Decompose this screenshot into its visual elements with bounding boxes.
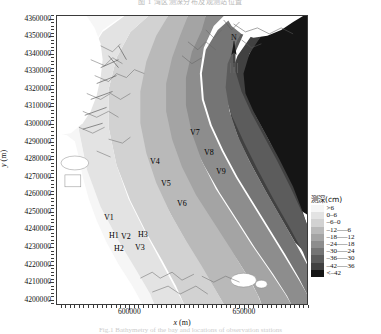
y-axis-minor-tick xyxy=(51,26,54,27)
x-axis-minor-tick xyxy=(290,305,291,308)
y-axis-tick-label: 4300000 xyxy=(24,120,51,128)
y-axis-minor-tick xyxy=(51,99,54,100)
x-axis-minor-tick xyxy=(258,305,259,308)
y-axis-tick-mark xyxy=(49,159,54,160)
y-axis-minor-tick xyxy=(51,166,54,167)
y-axis-tick-label: 4340000 xyxy=(24,50,51,58)
x-axis-minor-tick xyxy=(161,305,162,308)
y-axis: y (m) 4360000435000043400004330000432000… xyxy=(0,15,54,305)
x-axis-minor-tick xyxy=(152,305,153,308)
depth-legend-swatch xyxy=(311,227,324,234)
depth-legend-swatch xyxy=(311,212,324,219)
y-axis-minor-tick xyxy=(51,191,54,192)
y-axis-tick-mark xyxy=(49,177,54,178)
y-axis-minor-tick xyxy=(51,289,54,290)
depth-legend-swatch xyxy=(311,219,324,226)
y-axis-tick-mark xyxy=(49,71,54,72)
y-axis-tick-mark xyxy=(49,194,54,195)
x-axis-minor-tick xyxy=(125,305,126,308)
y-axis-tick-mark xyxy=(49,54,54,55)
station-label-v3[interactable]: V3 xyxy=(135,243,145,252)
x-axis-minor-tick xyxy=(148,305,149,308)
y-axis-minor-tick xyxy=(51,180,54,181)
station-label-v5[interactable]: V5 xyxy=(161,179,171,188)
depth-legend-row: <–42 xyxy=(311,270,379,277)
y-axis-minor-tick xyxy=(51,64,54,65)
y-axis-tick-label: 4210000 xyxy=(24,278,51,286)
x-axis-minor-tick xyxy=(303,305,304,308)
x-axis-minor-tick xyxy=(88,305,89,308)
y-axis-tick-label: 4350000 xyxy=(24,32,51,40)
depth-legend-swatch xyxy=(311,270,324,277)
y-axis-minor-tick xyxy=(51,145,54,146)
x-axis-minor-tick xyxy=(120,305,121,308)
y-axis-tick-label: 4230000 xyxy=(24,243,51,251)
depth-legend-row: >6 xyxy=(311,205,379,212)
y-axis-minor-tick xyxy=(51,240,54,241)
y-axis-tick-label: 4330000 xyxy=(24,67,51,75)
y-axis-tick-label: 4260000 xyxy=(24,190,51,198)
station-label-v4[interactable]: V4 xyxy=(150,157,160,166)
x-axis-minor-tick xyxy=(267,305,268,308)
y-axis-minor-tick xyxy=(51,68,54,69)
y-axis-minor-tick xyxy=(51,258,54,259)
y-axis-minor-tick xyxy=(51,61,54,62)
bathymetry-map[interactable]: N V1V2V3V4V5V6V7V8V9H1H2H3 xyxy=(56,15,308,305)
y-axis-minor-tick xyxy=(51,29,54,30)
x-axis-minor-tick xyxy=(83,305,84,308)
x-axis-minor-tick xyxy=(294,305,295,308)
y-axis-minor-tick xyxy=(51,275,54,276)
y-axis-minor-tick xyxy=(51,152,54,153)
station-label-v7[interactable]: V7 xyxy=(190,128,200,137)
x-axis-minor-tick xyxy=(65,305,66,308)
y-axis-minor-tick xyxy=(51,78,54,79)
x-axis-minor-tick xyxy=(184,305,185,308)
x-axis-minor-tick xyxy=(61,305,62,308)
x-axis-minor-tick xyxy=(97,305,98,308)
station-label-h1[interactable]: H1 xyxy=(109,231,119,240)
x-axis-minor-tick xyxy=(226,305,227,308)
depth-legend-row: –42—–36 xyxy=(311,263,379,270)
depth-legend-row: 0–6 xyxy=(311,212,379,219)
station-label-h2[interactable]: H2 xyxy=(114,244,124,253)
y-axis-minor-tick xyxy=(51,149,54,150)
x-axis-minor-tick xyxy=(143,305,144,308)
y-axis-minor-tick xyxy=(51,236,54,237)
figure-top-caption: 图 1 湾区测深分布及观测站位置 xyxy=(0,0,381,5)
y-axis-minor-tick xyxy=(51,205,54,206)
y-axis-minor-tick xyxy=(51,279,54,280)
y-axis-minor-tick xyxy=(51,243,54,244)
station-label-v8[interactable]: V8 xyxy=(204,148,214,157)
x-axis-minor-tick xyxy=(106,305,107,308)
y-axis-minor-tick xyxy=(51,57,54,58)
depth-legend: 测深(cm) >60–6–6–0–12—–6–18—–12–24—–18–30—… xyxy=(311,193,379,293)
x-axis-minor-tick xyxy=(203,305,204,308)
bathymetry-contour-layer xyxy=(57,16,307,304)
y-axis-tick-label: 4310000 xyxy=(24,102,51,110)
x-axis-tick-mark xyxy=(129,305,130,310)
y-axis-minor-tick xyxy=(51,40,54,41)
y-axis-minor-tick xyxy=(51,222,54,223)
north-arrow-label: N xyxy=(223,33,245,42)
x-axis-minor-tick xyxy=(189,305,190,308)
x-axis-minor-tick xyxy=(79,305,80,308)
depth-legend-rows: >60–6–6–0–12—–6–18—–12–24—–18–30—–24–36—… xyxy=(311,205,379,277)
y-axis-tick-mark xyxy=(49,19,54,20)
station-label-h3[interactable]: H3 xyxy=(138,230,148,239)
y-axis-minor-tick xyxy=(51,113,54,114)
station-label-v1[interactable]: V1 xyxy=(104,213,114,222)
y-axis-minor-tick xyxy=(51,120,54,121)
y-axis-tick-mark xyxy=(49,212,54,213)
y-axis-minor-tick xyxy=(51,47,54,48)
x-axis-minor-tick xyxy=(116,305,117,308)
y-axis-minor-tick xyxy=(51,215,54,216)
x-axis-minor-tick xyxy=(276,305,277,308)
y-axis-minor-tick xyxy=(51,163,54,164)
station-label-v9[interactable]: V9 xyxy=(216,167,226,176)
station-label-v6[interactable]: V6 xyxy=(177,199,187,208)
y-axis-minor-tick xyxy=(51,296,54,297)
y-axis-minor-tick xyxy=(51,75,54,76)
y-axis-minor-tick xyxy=(51,254,54,255)
station-label-v2[interactable]: V2 xyxy=(121,232,131,241)
x-axis-minor-tick xyxy=(221,305,222,308)
